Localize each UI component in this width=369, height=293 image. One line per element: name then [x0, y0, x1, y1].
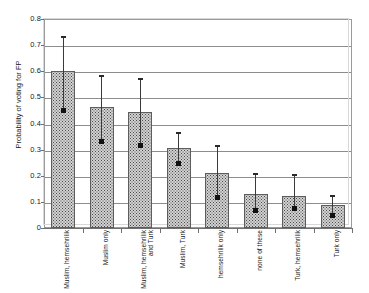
error-bar-lower-marker — [176, 161, 181, 166]
x-axis-tick-mark — [314, 229, 315, 233]
x-axis-label-wrapper: Turk only — [302, 228, 364, 290]
x-axis-tick-mark — [83, 229, 84, 233]
error-bar-lower-marker — [99, 139, 104, 144]
x-axis-tick-mark — [352, 229, 353, 233]
x-axis-tick-label: Turk, hemsehrilik — [294, 230, 301, 292]
x-axis-tick-labels: Muslim, hemsehrilikMuslim onlyMuslim, he… — [0, 228, 369, 293]
x-axis-tick-mark — [237, 229, 238, 233]
x-axis-tick-label: Muslim only — [102, 230, 109, 292]
y-axis-tick-mark — [41, 150, 44, 151]
y-axis-tick-label: 0.6 — [1, 67, 41, 75]
y-axis-tick-mark — [41, 202, 44, 203]
bar-group[interactable] — [90, 19, 114, 228]
error-bar-upper-cap — [99, 75, 104, 77]
error-bar-lower-marker — [61, 108, 66, 113]
error-bar-line — [178, 133, 179, 164]
y-axis-tick-mark — [41, 97, 44, 98]
x-axis-tick-label: none of these — [256, 230, 263, 292]
y-axis-tick-mark — [41, 124, 44, 125]
x-axis-tick-label: hemsehrilik only — [217, 230, 224, 292]
bar-group[interactable] — [167, 19, 191, 228]
error-bar-line — [140, 79, 141, 146]
y-axis-tick-label: 0.2 — [1, 172, 41, 180]
bar-group[interactable] — [51, 19, 75, 228]
x-axis-tick-mark — [160, 229, 161, 233]
y-axis-tick-label: 0.1 — [1, 198, 41, 206]
error-bar-lower-marker — [215, 195, 220, 200]
y-axis-tick-mark — [41, 19, 44, 20]
error-bar-upper-cap — [253, 173, 258, 175]
bars-layer — [44, 19, 352, 228]
bar-group[interactable] — [244, 19, 268, 228]
error-bar-line — [63, 37, 64, 110]
error-bar-upper-cap — [138, 78, 143, 80]
error-bar-upper-cap — [176, 132, 181, 134]
error-bar-line — [101, 76, 102, 141]
y-axis-tick-mark — [41, 228, 44, 229]
error-bar-lower-marker — [330, 213, 335, 218]
y-axis-tick-mark — [41, 45, 44, 46]
error-bar-lower-marker — [253, 208, 258, 213]
error-bar-line — [217, 146, 218, 197]
chart-container: Probability of voting for FP 0.80.70.60.… — [0, 0, 369, 293]
y-axis-tick-label: 0.3 — [1, 146, 41, 154]
x-axis-tick-label: Muslim, Turk — [179, 230, 186, 292]
y-axis-tick-label: 0.8 — [1, 15, 41, 23]
y-axis-tick-mark — [41, 176, 44, 177]
bar-group[interactable] — [321, 19, 345, 228]
y-axis-tick-label: 0.7 — [1, 41, 41, 49]
error-bar-upper-cap — [292, 174, 297, 176]
x-axis-tick-mark — [275, 229, 276, 233]
error-bar-lower-marker — [292, 206, 297, 211]
error-bar-upper-cap — [330, 195, 335, 197]
bar-group[interactable] — [128, 19, 152, 228]
x-axis-tick-mark — [198, 229, 199, 233]
error-bar-line — [255, 174, 256, 211]
y-axis-tick-label: 0.4 — [1, 120, 41, 128]
error-bar-lower-marker — [138, 143, 143, 148]
x-axis-tick-label: Muslim, hemsehrilik — [63, 230, 70, 292]
bar-group[interactable] — [282, 19, 306, 228]
y-axis-tick-label: 0.5 — [1, 93, 41, 101]
bar-group[interactable] — [205, 19, 229, 228]
error-bar-line — [294, 175, 295, 209]
x-axis-tick-label: Turk only — [333, 230, 340, 292]
error-bar-upper-cap — [61, 36, 66, 38]
error-bar-upper-cap — [215, 145, 220, 147]
x-axis-tick-mark — [121, 229, 122, 233]
y-axis-tick-mark — [41, 71, 44, 72]
